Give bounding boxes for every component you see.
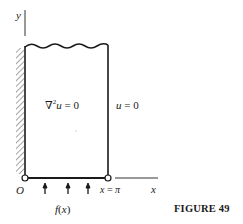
wavy-top-boundary <box>25 44 108 48</box>
figure-49: y ∇2u = 0 u = 0 O x = π x f(x) FIGURE 49 <box>0 0 243 224</box>
figure-caption: FIGURE 49 <box>174 204 230 215</box>
right-bound-label: x = π <box>100 185 120 195</box>
hatched-wall <box>16 48 24 174</box>
pde-label: ∇2u = 0 <box>45 99 79 111</box>
origin-point <box>22 175 28 181</box>
y-axis-label: y <box>16 10 21 21</box>
flux-arrows <box>43 183 90 194</box>
right-bc-label: u = 0 <box>116 100 139 111</box>
origin-label: O <box>16 185 24 196</box>
x-axis-label: x <box>151 184 156 195</box>
bottom-bc-label: f(x) <box>55 204 70 215</box>
semi-infinite-strip-diagram <box>0 0 243 224</box>
pi-point <box>105 175 111 181</box>
